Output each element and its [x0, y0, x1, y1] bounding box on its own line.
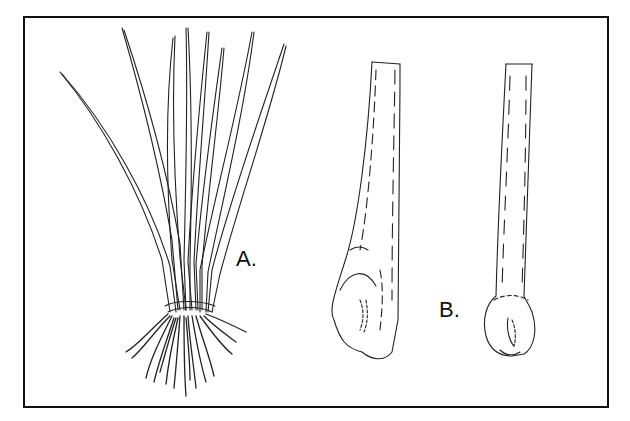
stem-section-2 [484, 64, 534, 356]
panel-label-b: B. [439, 297, 460, 323]
plant-roots [126, 314, 246, 396]
panel-label-a: A. [236, 246, 257, 272]
botanical-illustration [0, 0, 630, 421]
stem-section-1 [332, 62, 400, 359]
